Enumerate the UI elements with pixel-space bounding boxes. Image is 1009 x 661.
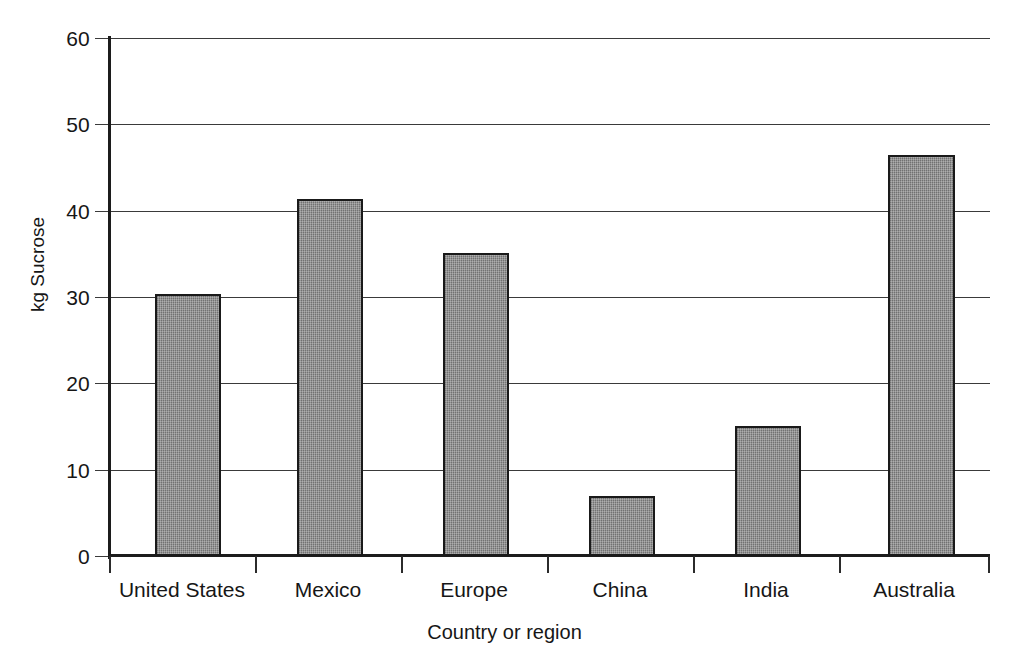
x-tick-label-united-states: United States: [109, 578, 255, 602]
x-tick-mark-4: [693, 556, 695, 573]
x-tick-mark-2: [401, 556, 403, 573]
y-tick-mark-0: [95, 556, 108, 557]
bar-mexico: [297, 199, 363, 556]
y-tick-mark-50: [95, 124, 108, 125]
gridline-10: [110, 470, 990, 471]
gridline-50: [110, 124, 990, 125]
x-tick-mark-1: [255, 556, 257, 573]
y-tick-mark-20: [95, 383, 108, 384]
gridline-40: [110, 211, 990, 212]
axis-baseline: [110, 554, 990, 557]
y-tick-mark-30: [95, 297, 108, 298]
y-tick-label-60: 60: [30, 28, 90, 49]
x-tick-label-india: India: [693, 578, 839, 602]
y-axis-line: [108, 36, 111, 559]
y-tick-label-50: 50: [30, 114, 90, 135]
x-tick-mark-6: [988, 556, 990, 573]
bar-china: [589, 496, 655, 556]
gridline-20: [110, 383, 990, 384]
bar-united-states: [155, 294, 221, 556]
plot-area: [110, 38, 990, 556]
gridline-60: [110, 38, 990, 39]
y-tick-mark-40: [95, 211, 108, 212]
bar-chart-figure: 60 50 40 30 20 10 0 kg Sucrose United St…: [0, 0, 1009, 661]
x-tick-mark-3: [547, 556, 549, 573]
x-tick-label-china: China: [547, 578, 693, 602]
x-tick-label-mexico: Mexico: [255, 578, 401, 602]
bar-europe: [443, 253, 509, 556]
y-tick-label-10: 10: [30, 460, 90, 481]
x-tick-label-europe: Europe: [401, 578, 547, 602]
x-tick-mark-5: [839, 556, 841, 573]
y-tick-label-20: 20: [30, 373, 90, 394]
y-tick-label-0: 0: [30, 546, 90, 567]
y-axis-title: kg Sucrose: [28, 170, 47, 360]
y-tick-mark-10: [95, 470, 108, 471]
x-tick-label-australia: Australia: [839, 578, 989, 602]
gridline-30: [110, 297, 990, 298]
y-tick-mark-60: [95, 38, 108, 39]
x-axis-title: Country or region: [0, 621, 1009, 643]
bar-australia: [888, 155, 955, 556]
x-tick-mark-0: [109, 556, 111, 573]
bar-india: [735, 426, 801, 556]
